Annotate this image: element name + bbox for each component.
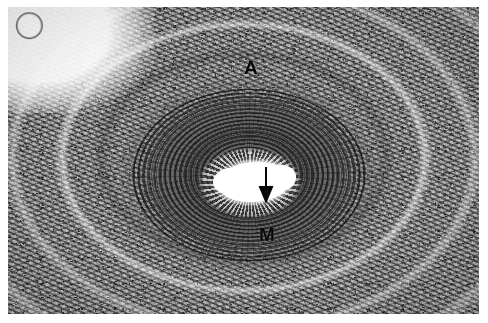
vignette-overlay [8,7,479,314]
micrograph-plate: A M [8,7,479,314]
micrograph-figure: A M [0,0,488,323]
